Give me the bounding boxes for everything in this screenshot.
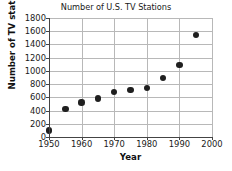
y-tick-label: 600 bbox=[19, 92, 46, 102]
gridline-horizontal bbox=[49, 84, 212, 85]
gridline-vertical bbox=[212, 18, 213, 137]
x-tick-label: 1990 bbox=[164, 139, 194, 149]
y-tick-label: 1800 bbox=[19, 13, 46, 23]
gridline-horizontal bbox=[49, 18, 212, 19]
tv-stations-scatter-chart: Number of U.S. TV Stations Number of TV … bbox=[0, 0, 232, 171]
gridline-vertical bbox=[82, 18, 83, 137]
data-point bbox=[127, 87, 133, 93]
gridline-horizontal bbox=[49, 71, 212, 72]
x-axis-tick-labels: 195019601970198019902000 bbox=[0, 139, 232, 151]
y-tick-label: 1600 bbox=[19, 26, 46, 36]
gridline-vertical bbox=[147, 18, 148, 137]
gridline-horizontal bbox=[49, 44, 212, 45]
y-tick-label: 400 bbox=[19, 106, 46, 116]
gridline-horizontal bbox=[49, 111, 212, 112]
data-point bbox=[160, 75, 166, 81]
y-tick-label: 1200 bbox=[19, 53, 46, 63]
x-tick-label: 1950 bbox=[34, 139, 64, 149]
gridline-vertical bbox=[114, 18, 115, 137]
y-tick-label: 800 bbox=[19, 79, 46, 89]
x-tick-label: 1970 bbox=[99, 139, 129, 149]
y-tick-label: 1400 bbox=[19, 39, 46, 49]
y-tick-label: 200 bbox=[19, 119, 46, 129]
gridline-horizontal bbox=[49, 124, 212, 125]
data-point bbox=[111, 89, 117, 95]
x-tick-label: 1960 bbox=[67, 139, 97, 149]
data-point bbox=[78, 99, 84, 105]
gridline-vertical bbox=[179, 18, 180, 137]
data-point bbox=[176, 62, 182, 68]
gridline-horizontal bbox=[49, 97, 212, 98]
y-axis-label: Number of TV stations bbox=[7, 0, 17, 95]
y-tick-label: 1000 bbox=[19, 66, 46, 76]
y-axis-line bbox=[49, 18, 50, 138]
data-point bbox=[144, 85, 150, 91]
gridline-horizontal bbox=[49, 31, 212, 32]
x-tick-label: 2000 bbox=[197, 139, 227, 149]
data-point bbox=[193, 32, 199, 38]
data-point bbox=[62, 106, 68, 112]
x-axis-line bbox=[49, 137, 212, 138]
x-tick-label: 1980 bbox=[132, 139, 162, 149]
x-axis-label: Year bbox=[48, 152, 213, 162]
gridline-horizontal bbox=[49, 58, 212, 59]
data-point bbox=[95, 95, 101, 101]
plot-area bbox=[49, 18, 212, 137]
